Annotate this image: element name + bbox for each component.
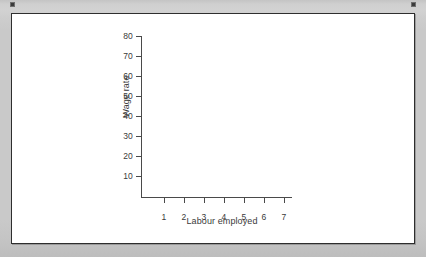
- y-tick-mark: [136, 56, 141, 57]
- y-tick-mark: [136, 36, 141, 37]
- x-tick-mark: [244, 198, 245, 203]
- y-tick-mark: [136, 96, 141, 97]
- y-tick-mark: [136, 136, 141, 137]
- y-tick-label-30: 30: [110, 132, 133, 142]
- y-tick-mark: [136, 156, 141, 157]
- x-tick-mark: [284, 198, 285, 203]
- selection-handle-top-left[interactable]: [10, 2, 15, 7]
- x-tick-mark: [164, 198, 165, 203]
- y-tick-text: 70: [110, 52, 133, 61]
- y-tick-text: 30: [110, 132, 133, 141]
- y-tick-text: 20: [110, 152, 133, 161]
- figure-panel[interactable]: 80 70 60 50 40 30 20 10: [11, 13, 415, 244]
- y-tick-label-20: 20: [110, 152, 133, 162]
- y-tick-text: 80: [110, 32, 133, 41]
- x-tick-mark: [224, 198, 225, 203]
- y-axis-title: Wage rate: [122, 69, 131, 125]
- x-axis-title: Labour employed: [162, 217, 282, 226]
- x-tick-mark: [184, 198, 185, 203]
- x-tick-mark: [204, 198, 205, 203]
- y-tick-mark: [136, 176, 141, 177]
- x-tick-mark: [264, 198, 265, 203]
- y-tick-label-80: 80: [110, 32, 133, 42]
- y-axis-line: [141, 36, 142, 198]
- x-tick-label-1: 1: [157, 206, 171, 217]
- x-tick-text: 7: [282, 212, 287, 222]
- y-tick-text: 10: [110, 172, 133, 181]
- y-tick-mark: [136, 116, 141, 117]
- x-tick-label-6: 6: [257, 206, 271, 217]
- y-tick-mark: [136, 76, 141, 77]
- y-tick-label-70: 70: [110, 52, 133, 62]
- y-tick-label-10: 10: [110, 172, 133, 182]
- selection-handle-top-right[interactable]: [411, 2, 416, 7]
- chart-plot-area: 80 70 60 50 40 30 20 10: [12, 14, 416, 245]
- x-tick-label-7: 7: [277, 206, 291, 217]
